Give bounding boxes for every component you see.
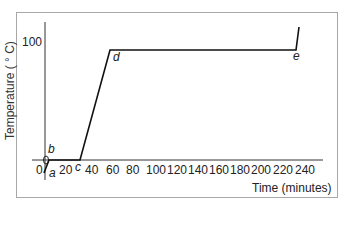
x-tick-200: 200: [251, 164, 271, 176]
x-tick-100: 100: [146, 164, 166, 176]
x-tick-120: 120: [167, 164, 187, 176]
x-tick-220: 220: [273, 164, 293, 176]
point-label-a: a: [49, 167, 56, 179]
point-label-c: c: [75, 161, 81, 173]
y-axis-label: Temperature ( ° C): [3, 41, 17, 140]
point-label-b: b: [48, 143, 55, 155]
x-tick-240: 240: [295, 164, 315, 176]
x-axis-label: Time (minutes): [252, 182, 332, 194]
y-tick-100: 100: [22, 36, 42, 48]
x-tick-40: 40: [85, 164, 98, 176]
x-tick-140: 140: [188, 164, 208, 176]
point-label-e: e: [293, 50, 300, 62]
x-tick-20: 20: [59, 164, 72, 176]
x-tick-180: 180: [230, 164, 250, 176]
point-label-d: d: [113, 51, 120, 63]
heating-curve-line: [44, 27, 299, 173]
x-tick-80: 80: [126, 164, 139, 176]
x-tick-0: 0: [36, 164, 43, 176]
x-tick-160: 160: [209, 164, 229, 176]
x-tick-60: 60: [106, 164, 119, 176]
